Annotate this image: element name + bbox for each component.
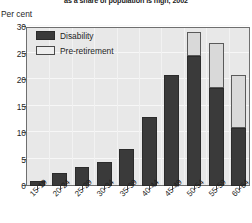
- x-axis: 15-1920-2425-2930-3435-3940-4445-4950-54…: [26, 186, 250, 223]
- bar-segment-disability[interactable]: [142, 117, 157, 186]
- bar-group[interactable]: [142, 117, 157, 186]
- legend-swatch-pre-retirement-icon: [36, 46, 55, 55]
- chart-container: as a share of population is high, 2002 P…: [0, 0, 252, 223]
- legend-label-disability: Disability: [60, 31, 94, 41]
- chart-title: as a share of population is high, 2002: [0, 0, 252, 5]
- legend-item-pre-retirement: Pre-retirement: [36, 44, 132, 57]
- bar-group[interactable]: [187, 32, 202, 186]
- y-axis-tick-label: 25: [4, 49, 26, 59]
- y-axis-tick-label: 5: [4, 155, 26, 165]
- y-axis-unit-label: Per cent: [1, 9, 32, 19]
- chart-legend: Disability Pre-retirement: [36, 29, 132, 59]
- y-axis-tick-label: 15: [4, 102, 26, 112]
- y-axis-tick-label: 20: [4, 75, 26, 85]
- bar-segment-disability[interactable]: [209, 88, 224, 186]
- legend-swatch-disability-icon: [36, 31, 55, 40]
- bar-group[interactable]: [209, 43, 224, 186]
- bar-segment-pre-retirement[interactable]: [231, 75, 246, 128]
- bar-segment-pre-retirement[interactable]: [187, 32, 202, 56]
- bar-segment-disability[interactable]: [164, 75, 179, 186]
- bar-group[interactable]: [231, 75, 246, 186]
- bar-segment-pre-retirement[interactable]: [209, 43, 224, 88]
- legend-item-disability: Disability: [36, 29, 132, 42]
- y-axis-tick-label: 10: [4, 128, 26, 138]
- y-axis-tick-label: 30: [4, 22, 26, 32]
- bar-segment-disability[interactable]: [187, 56, 202, 186]
- y-axis: 051015202530: [0, 27, 26, 186]
- bar-group[interactable]: [164, 75, 179, 186]
- legend-label-pre-retirement: Pre-retirement: [60, 46, 114, 56]
- gridline-horizontal: [27, 25, 249, 26]
- y-axis-tick-label: 0: [4, 181, 26, 191]
